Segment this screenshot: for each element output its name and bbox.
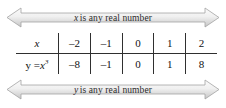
value-table: x –2 –1 0 1 2 y =x3 –8 –1 0 1 8 (16, 33, 212, 73)
cell-y-0: –8 (59, 54, 91, 75)
cell-x-2: 0 (122, 33, 154, 54)
domain-arrow-label: x is any real number (7, 6, 219, 29)
cell-y-4: 8 (186, 54, 217, 75)
cell-x-3: 1 (154, 33, 186, 54)
cell-x-4: 2 (186, 33, 217, 54)
row-label-y-exponent: 3 (45, 58, 49, 66)
cell-y-1: –1 (90, 54, 122, 75)
row-label-x: x (16, 33, 59, 54)
cell-x-0: –2 (59, 33, 91, 54)
cell-y-2: 0 (122, 54, 154, 75)
cubic-function-domain-range-figure: x is any real number x –2 –1 0 1 2 (0, 0, 226, 108)
row-label-y: y =x3 (16, 54, 59, 75)
cell-y-3: 1 (154, 54, 186, 75)
domain-statement: is any real number (80, 13, 152, 23)
range-statement: is any real number (80, 85, 152, 95)
cell-x-1: –1 (90, 33, 122, 54)
row-label-y-lead: y = (26, 58, 40, 70)
domain-arrow-banner: x is any real number (7, 6, 219, 29)
table-row-y: y =x3 –8 –1 0 1 8 (16, 54, 217, 75)
table-row-x: x –2 –1 0 1 2 (16, 33, 217, 54)
range-arrow-banner: y is any real number (7, 78, 219, 101)
range-arrow-label: y is any real number (7, 78, 219, 101)
